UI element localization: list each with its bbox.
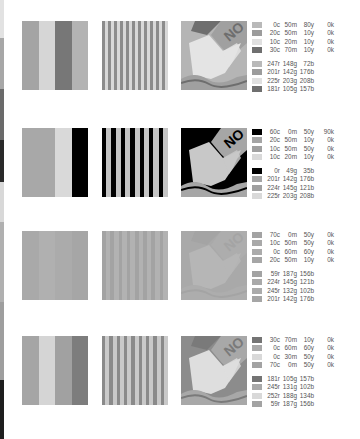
blue-value: 72b xyxy=(297,60,314,68)
stripe-band xyxy=(72,336,89,405)
arrow-artwork-illustration: NO xyxy=(181,336,247,405)
color-swatch xyxy=(252,345,262,351)
fine-line-sample xyxy=(102,128,168,197)
magenta-value: 20m xyxy=(280,38,297,46)
color-values: 60c0m50y90k 20c50m10y0k 10c50m50y0k 10c2… xyxy=(262,128,360,200)
rgb-row: 0r49g35b xyxy=(262,167,360,175)
wide-stripe-sample xyxy=(22,336,88,405)
color-swatch xyxy=(252,168,262,174)
blue-value: 102b xyxy=(297,383,314,391)
black-value: 90k xyxy=(314,128,334,136)
cmyk-row: 20c50m10y0k xyxy=(262,256,360,264)
cmyk-row: 0c30m50y0k xyxy=(262,353,360,361)
artwork-sample: NO xyxy=(181,21,247,90)
stripe-band xyxy=(72,21,89,90)
red-value: 201r xyxy=(262,295,280,303)
cyan-value: 20c xyxy=(262,256,280,264)
color-swatch xyxy=(252,384,262,390)
green-value: 131g xyxy=(280,383,297,391)
green-value: 145g xyxy=(280,184,297,192)
black-value: 0k xyxy=(314,353,334,361)
cmyk-row: 10c50m50y0k xyxy=(262,145,360,153)
cmyk-row: 10c20m10y0k xyxy=(262,38,360,46)
magenta-value: 50m xyxy=(280,29,297,37)
rgb-row: 201r142g176b xyxy=(262,68,360,76)
color-swatch xyxy=(252,22,262,28)
rgb-row: 224r145g121b xyxy=(262,278,360,286)
stripe-band xyxy=(39,128,56,197)
color-swatch xyxy=(252,288,262,294)
green-value: 105g xyxy=(280,375,297,383)
red-value: 59r xyxy=(262,270,280,278)
rgb-row: 181r105g157b xyxy=(262,375,360,383)
cyan-value: 10c xyxy=(262,38,280,46)
rgb-row: 247r148g72b xyxy=(262,60,360,68)
rgb-row: 59r187g156b xyxy=(262,400,360,408)
color-swatch xyxy=(252,137,262,143)
green-value: 187g xyxy=(280,400,297,408)
red-value: 201r xyxy=(262,175,280,183)
blue-value: 157b xyxy=(297,85,314,93)
stripe-band xyxy=(39,231,56,300)
magenta-value: 50m xyxy=(280,256,297,264)
black-value: 0k xyxy=(314,256,334,264)
black-value: 0k xyxy=(314,29,334,37)
cyan-value: 0c xyxy=(262,21,280,29)
blue-value: 156b xyxy=(297,400,314,408)
green-value: 142g xyxy=(280,295,297,303)
color-swatch xyxy=(252,271,262,277)
black-value: 0k xyxy=(314,145,334,153)
cyan-value: 70c xyxy=(262,361,280,369)
cyan-value: 30c xyxy=(262,336,280,344)
color-swatch xyxy=(252,61,262,67)
color-swatch xyxy=(252,337,262,343)
color-swatch xyxy=(252,30,262,36)
swatch-row-3: NO 70c0m50y0k 10c50m50y0k 0c60m60y0k 20c… xyxy=(0,231,360,303)
magenta-value: 20m xyxy=(280,153,297,161)
red-value: 201r xyxy=(262,68,280,76)
magenta-value: 60m xyxy=(280,344,297,352)
stripe-band xyxy=(72,128,89,197)
rgb-row: 225r203g208b xyxy=(262,192,360,200)
black-value: 0k xyxy=(314,344,334,352)
fine-line-sample xyxy=(102,21,168,90)
stripe-band xyxy=(22,336,39,405)
yellow-value: 10y xyxy=(297,38,314,46)
stripe-band xyxy=(55,21,72,90)
blue-value: 176b xyxy=(297,295,314,303)
magenta-value: 70m xyxy=(280,46,297,54)
cmyk-row: 30c70m10y0k xyxy=(262,336,360,344)
red-value: 181r xyxy=(262,85,280,93)
stripe-band xyxy=(22,231,39,300)
rgb-row: 225r203g208b xyxy=(262,77,360,85)
rgb-row: 224r145g121b xyxy=(262,184,360,192)
blue-value: 121b xyxy=(297,278,314,286)
red-value: 225r xyxy=(262,77,280,85)
magenta-value: 30m xyxy=(280,353,297,361)
stripe-band xyxy=(55,336,72,405)
cyan-value: 10c xyxy=(262,153,280,161)
rgb-row: 201r142g176b xyxy=(262,295,360,303)
magenta-value: 0m xyxy=(280,361,297,369)
color-values: 70c0m50y0k 10c50m50y0k 0c60m60y0k 20c50m… xyxy=(262,231,360,303)
cmyk-row: 60c0m50y90k xyxy=(262,128,360,136)
green-value: 187g xyxy=(280,270,297,278)
color-swatch xyxy=(252,47,262,53)
cyan-value: 0c xyxy=(262,353,280,361)
cmyk-row: 70c0m50y0k xyxy=(262,361,360,369)
rgb-row: 245r132g102b xyxy=(262,287,360,295)
yellow-value: 10y xyxy=(297,46,314,54)
black-value: 0k xyxy=(314,361,334,369)
stripe-band xyxy=(22,21,39,90)
color-swatch xyxy=(252,249,262,255)
black-value: 0k xyxy=(314,248,334,256)
fine-line-sample xyxy=(102,336,168,405)
cmyk-row: 10c50m50y0k xyxy=(262,239,360,247)
cyan-value: 20c xyxy=(262,29,280,37)
blue-value: 176b xyxy=(297,68,314,76)
blue-value: 102b xyxy=(297,287,314,295)
arrow-artwork-illustration: NO xyxy=(181,231,247,300)
cyan-value: 0c xyxy=(262,344,280,352)
color-swatch xyxy=(252,39,262,45)
blue-value: 157b xyxy=(297,375,314,383)
